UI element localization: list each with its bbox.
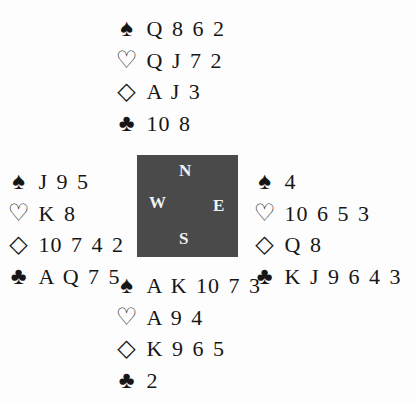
north-clubs: 10 8 <box>147 111 192 136</box>
east-hearts: 10 6 5 3 <box>285 201 371 226</box>
north-clubs-row: ♣ 10 8 <box>114 108 225 140</box>
heart-icon: ♡ <box>6 198 32 230</box>
east-spades: 4 <box>285 169 297 194</box>
heart-icon: ♡ <box>252 198 278 230</box>
north-spades: Q 8 6 2 <box>147 16 225 41</box>
compass-east-label: E <box>213 196 224 216</box>
north-diamonds-row: ◇ A J 3 <box>114 76 225 108</box>
west-clubs-row: ♣ A Q 7 5 <box>6 261 124 293</box>
west-hearts: K 8 <box>39 201 76 226</box>
diamond-icon: ◇ <box>114 76 140 108</box>
east-spades-row: ♠ 4 <box>252 166 401 198</box>
west-diamonds-row: ◇ 10 7 4 2 <box>6 229 124 261</box>
west-spades: J 9 5 <box>39 169 90 194</box>
south-spades: A K 10 7 3 <box>147 273 262 298</box>
compass-table: N W E S <box>137 155 238 257</box>
east-clubs-row: ♣ K J 9 6 4 3 <box>252 261 401 293</box>
south-clubs-row: ♣ 2 <box>114 365 261 397</box>
diamond-icon: ◇ <box>252 229 278 261</box>
south-diamonds-row: ◇ K 9 6 5 <box>114 333 261 365</box>
south-hearts: A 9 4 <box>147 305 204 330</box>
east-diamonds: Q 8 <box>285 232 322 257</box>
club-icon: ♣ <box>6 261 32 293</box>
west-hand: ♠ J 9 5 ♡ K 8 ◇ 10 7 4 2 ♣ A Q 7 5 <box>6 166 124 292</box>
west-clubs: A Q 7 5 <box>39 264 121 289</box>
club-icon: ♣ <box>114 108 140 140</box>
east-clubs: K J 9 6 4 3 <box>285 264 402 289</box>
compass-west-label: W <box>149 193 166 213</box>
south-clubs: 2 <box>147 368 159 393</box>
compass-south-label: S <box>179 229 188 249</box>
spade-icon: ♠ <box>6 166 32 198</box>
east-diamonds-row: ◇ Q 8 <box>252 229 401 261</box>
heart-icon: ♡ <box>114 45 140 77</box>
spade-icon: ♠ <box>114 270 140 302</box>
north-spades-row: ♠ Q 8 6 2 <box>114 13 225 45</box>
diamond-icon: ◇ <box>114 333 140 365</box>
south-spades-row: ♠ A K 10 7 3 <box>114 270 261 302</box>
diamond-icon: ◇ <box>6 229 32 261</box>
east-hand: ♠ 4 ♡ 10 6 5 3 ◇ Q 8 ♣ K J 9 6 4 3 <box>252 166 401 292</box>
west-spades-row: ♠ J 9 5 <box>6 166 124 198</box>
north-hearts: Q J 7 2 <box>147 48 223 73</box>
north-hand: ♠ Q 8 6 2 ♡ Q J 7 2 ◇ A J 3 ♣ 10 8 <box>114 13 225 139</box>
spade-icon: ♠ <box>114 13 140 45</box>
north-hearts-row: ♡ Q J 7 2 <box>114 45 225 77</box>
south-hearts-row: ♡ A 9 4 <box>114 302 261 334</box>
club-icon: ♣ <box>114 365 140 397</box>
south-hand: ♠ A K 10 7 3 ♡ A 9 4 ◇ K 9 6 5 ♣ 2 <box>114 270 261 396</box>
heart-icon: ♡ <box>114 302 140 334</box>
west-hearts-row: ♡ K 8 <box>6 198 124 230</box>
east-hearts-row: ♡ 10 6 5 3 <box>252 198 401 230</box>
west-diamonds: 10 7 4 2 <box>39 232 125 257</box>
compass-north-label: N <box>179 161 191 181</box>
north-diamonds: A J 3 <box>147 79 201 104</box>
spade-icon: ♠ <box>252 166 278 198</box>
south-diamonds: K 9 6 5 <box>147 336 225 361</box>
